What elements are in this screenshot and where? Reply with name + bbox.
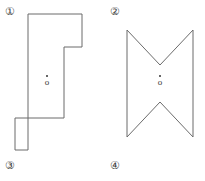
- figure-label-4: ④: [108, 159, 121, 172]
- figure-canvas: ① ② ③ ④ o o: [0, 0, 205, 181]
- figure-label-1: ①: [3, 5, 16, 18]
- figure-label-3: ③: [3, 159, 16, 172]
- shapes-layer: [0, 0, 205, 181]
- centroid-marker-right: o: [154, 75, 166, 91]
- centroid-marker-left: o: [41, 75, 53, 91]
- figure-label-2: ②: [108, 5, 121, 18]
- centroid-o-glyph: o: [154, 78, 166, 87]
- centroid-o-glyph: o: [41, 78, 53, 87]
